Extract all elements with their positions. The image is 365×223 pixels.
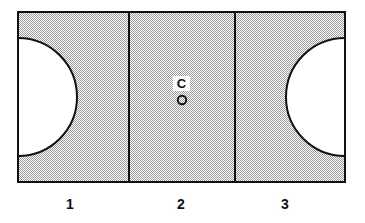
diagram-canvas xyxy=(0,0,365,223)
zone-label-3: 3 xyxy=(273,196,297,212)
center-marker-label: C xyxy=(173,76,190,91)
zone-label-1: 1 xyxy=(58,196,82,212)
plate-hatch-fill xyxy=(0,0,365,223)
figure-root: C 1 2 3 xyxy=(0,0,365,223)
plate-body xyxy=(0,0,365,223)
zone-label-2: 2 xyxy=(169,196,193,212)
